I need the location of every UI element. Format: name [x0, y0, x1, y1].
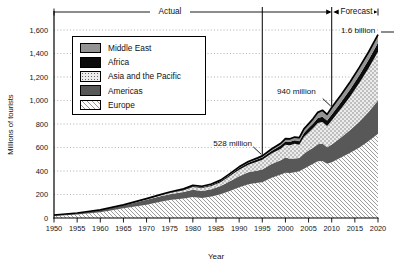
annotation-1-6-billion: 1.6 billion: [341, 26, 375, 35]
asia-pacific-swatch-icon: [80, 71, 101, 82]
tourism-chart-figure: 1950195519601965197019751980198519901995…: [0, 0, 401, 276]
x-axis-title: Year: [176, 252, 256, 261]
svg-text:1990: 1990: [231, 224, 247, 233]
svg-text:1,400: 1,400: [30, 49, 49, 58]
annotation-528-million: 528 million: [196, 139, 252, 148]
svg-text:2000: 2000: [277, 224, 293, 233]
svg-text:1970: 1970: [138, 224, 154, 233]
svg-text:2015: 2015: [347, 224, 363, 233]
legend-item-europe: Europe: [80, 98, 205, 112]
svg-text:800: 800: [36, 120, 48, 129]
legend-item-africa: Africa: [80, 55, 205, 69]
svg-text:1950: 1950: [46, 224, 62, 233]
svg-text:400: 400: [36, 167, 48, 176]
actual-span-label: Actual: [150, 7, 190, 16]
legend: Middle East Africa Asia and the Pacific …: [72, 36, 206, 115]
svg-text:1960: 1960: [92, 224, 108, 233]
svg-text:2010: 2010: [323, 224, 339, 233]
svg-text:1955: 1955: [69, 224, 85, 233]
svg-text:1995: 1995: [254, 224, 270, 233]
svg-text:1,600: 1,600: [30, 26, 49, 35]
svg-text:1,200: 1,200: [30, 73, 49, 82]
svg-text:600: 600: [36, 143, 48, 152]
y-axis-title: Millions of tourists: [6, 89, 17, 161]
svg-text:200: 200: [36, 190, 48, 199]
svg-text:2005: 2005: [300, 224, 316, 233]
svg-text:0: 0: [44, 214, 48, 223]
svg-text:1980: 1980: [185, 224, 201, 233]
legend-item-middle-east: Middle East: [80, 41, 205, 55]
svg-text:1965: 1965: [115, 224, 131, 233]
legend-item-americas: Americas: [80, 84, 205, 98]
middle-east-swatch-icon: [80, 43, 101, 54]
annotation-940-million: 940 million: [277, 87, 316, 96]
svg-text:2020: 2020: [370, 224, 386, 233]
europe-swatch-icon: [80, 100, 101, 111]
africa-swatch-icon: [80, 57, 101, 68]
legend-label: Middle East: [108, 43, 151, 53]
forecast-span-label: Forecast: [339, 7, 374, 16]
legend-item-asia-pacific: Asia and the Pacific: [80, 69, 205, 83]
svg-text:1985: 1985: [208, 224, 224, 233]
americas-swatch-icon: [80, 85, 101, 96]
legend-label: Africa: [108, 57, 129, 67]
svg-text:1975: 1975: [161, 224, 177, 233]
legend-label: Americas: [108, 86, 143, 96]
legend-label: Europe: [108, 100, 135, 110]
svg-text:1,000: 1,000: [30, 96, 49, 105]
legend-label: Asia and the Pacific: [108, 71, 181, 81]
